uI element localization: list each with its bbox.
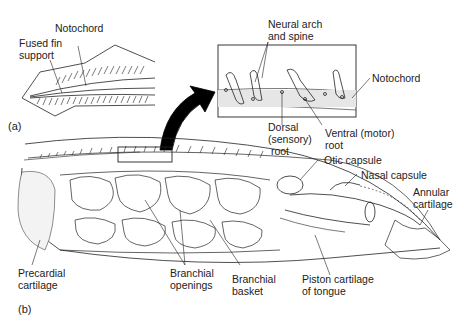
label-otic-capsule: Otic capsule bbox=[324, 154, 382, 166]
label-ventral-root: Ventral (motor) root bbox=[325, 127, 394, 151]
inset-box bbox=[218, 42, 370, 125]
panel-tag-a: (a) bbox=[8, 120, 21, 132]
label-piston-cartilage: Piston cartilage of tongue bbox=[302, 273, 374, 297]
label-annular-cartilage: Annular cartilage bbox=[413, 186, 453, 210]
label-fused-fin-support: Fused fin support bbox=[19, 37, 62, 61]
label-branchial-basket: Branchial basket bbox=[232, 273, 276, 297]
lamprey-body-drawing bbox=[18, 137, 450, 275]
label-notochord-a: Notochord bbox=[55, 22, 103, 34]
label-precardial-cartilage: Precardial cartilage bbox=[18, 267, 65, 291]
label-dorsal-root: Dorsal (sensory) root bbox=[268, 121, 312, 157]
panel-tag-b: (b) bbox=[18, 303, 31, 315]
label-neural-arch-spine: Neural arch and spine bbox=[268, 18, 322, 42]
label-notochord-inset: Notochord bbox=[372, 72, 420, 84]
label-nasal-capsule: Nasal capsule bbox=[361, 169, 427, 181]
label-branchial-openings: Branchial openings bbox=[170, 267, 214, 291]
